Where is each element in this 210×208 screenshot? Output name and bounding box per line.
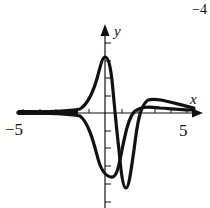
y-axis-arrow-icon [101,24,110,36]
x-tick-label-min: −5 [5,120,23,139]
curve-a [18,57,194,188]
x-tick-label-max: 5 [179,121,188,140]
corner-fragment-label: −4 [192,2,207,17]
curve-b [18,107,194,177]
x-axis-label: x [189,91,197,107]
y-axis-label: y [112,23,121,39]
chart-canvas: x y −5 5 −4 [0,0,210,208]
